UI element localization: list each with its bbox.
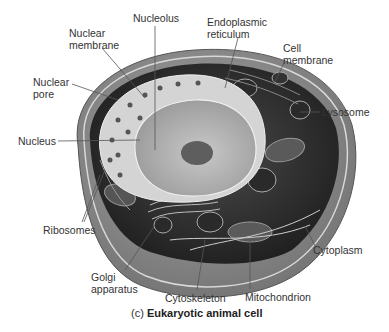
label-lysosome: Lysosome xyxy=(322,106,369,118)
caption-title: Eukaryotic animal cell xyxy=(147,307,263,319)
label-cytoskeleton: Cytoskeleton xyxy=(165,292,226,304)
nucleolus xyxy=(181,141,213,165)
label-nucleolus: Nucleolus xyxy=(133,12,179,24)
label-cytoplasm: Cytoplasm xyxy=(313,244,363,256)
label-ribosomes: Ribosomes xyxy=(43,224,96,236)
caption-prefix: (c) xyxy=(131,307,144,319)
label-endoplasmic-reticulum: Endoplasmic reticulum xyxy=(207,16,267,40)
label-mitochondrion: Mitochondrion xyxy=(245,291,311,303)
figure-caption: (c) Eukaryotic animal cell xyxy=(131,307,262,319)
label-golgi-apparatus: Golgi apparatus xyxy=(91,271,138,295)
label-nucleus: Nucleus xyxy=(18,135,56,147)
label-cell-membrane: Cell membrane xyxy=(283,42,333,66)
label-nuclear-pore: Nuclear pore xyxy=(33,76,69,100)
label-nuclear-membrane: Nuclear membrane xyxy=(69,27,119,51)
eukaryotic-cell-figure: Nucleolus Nuclear membrane Endoplasmic r… xyxy=(0,0,389,332)
